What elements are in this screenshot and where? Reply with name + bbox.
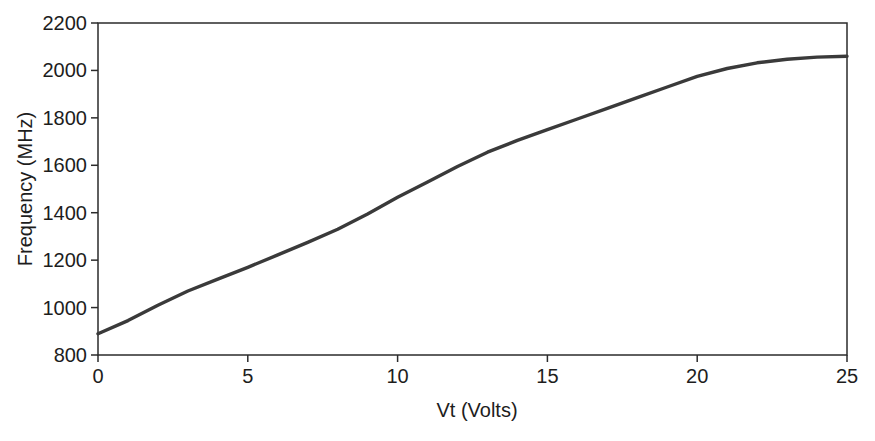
y-tick-label: 800 (54, 344, 87, 366)
y-tick-label: 1000 (43, 297, 88, 319)
x-tick-label: 15 (536, 365, 558, 387)
x-tick-label: 10 (386, 365, 408, 387)
x-tick-label: 5 (242, 365, 253, 387)
y-tick-label: 1400 (43, 202, 88, 224)
frequency-curve (98, 56, 847, 334)
y-tick-label: 1600 (43, 154, 88, 176)
frequency-vs-vt-chart: 8001000120014001600180020002200 05101520… (0, 0, 875, 441)
y-axis-tick-labels: 8001000120014001600180020002200 (43, 12, 88, 366)
y-axis-ticks (91, 23, 98, 355)
frequency-vs-vt-figure: 8001000120014001600180020002200 05101520… (0, 0, 875, 441)
plot-border (98, 23, 847, 355)
y-tick-label: 1200 (43, 249, 88, 271)
y-tick-label: 1800 (43, 107, 88, 129)
y-axis-label: Frequency (MHz) (14, 112, 36, 266)
x-axis-label: Vt (Volts) (436, 399, 517, 421)
x-axis-tick-labels: 0510152025 (92, 365, 858, 387)
y-tick-label: 2200 (43, 12, 88, 34)
x-tick-label: 25 (836, 365, 858, 387)
y-tick-label: 2000 (43, 59, 88, 81)
x-axis-ticks (98, 355, 847, 362)
x-tick-label: 0 (92, 365, 103, 387)
x-tick-label: 20 (686, 365, 708, 387)
